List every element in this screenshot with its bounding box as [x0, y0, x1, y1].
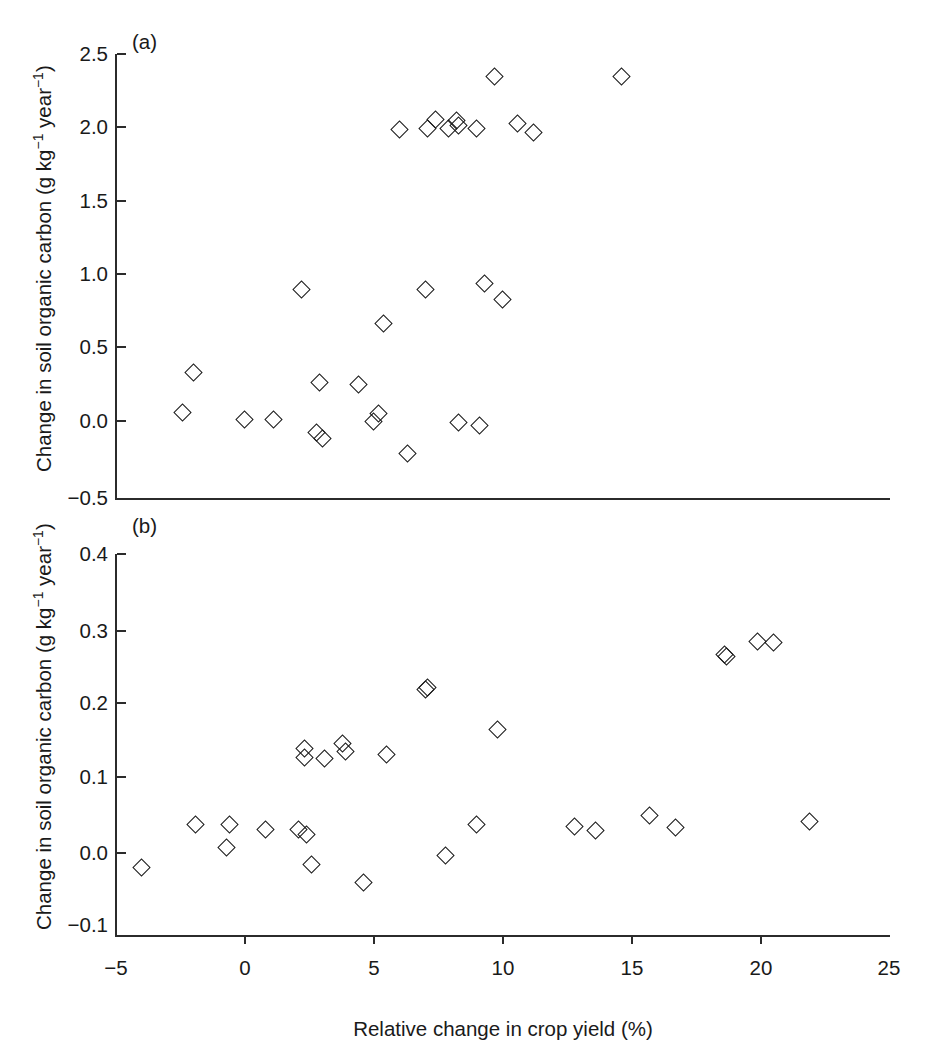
data-point-a-13: [398, 444, 416, 462]
data-point-a-7: [292, 280, 310, 298]
data-point-b-0: [133, 858, 151, 876]
scatter-figure: Change in soil organic carbon (g kg−1 ye…: [0, 0, 927, 1050]
data-point-a-8: [349, 375, 367, 393]
data-point-b-28: [800, 812, 818, 830]
data-point-b-9: [303, 855, 321, 873]
panel-b: (b) 0.4 0.3 0.2 0.1 0.0 −0.1 −5 0 5 10 1…: [0, 510, 927, 1050]
panel-b-plot-area: [0, 510, 927, 1050]
data-point-a-12: [390, 120, 408, 138]
data-point-a-21: [470, 416, 488, 434]
data-point-a-20: [449, 413, 467, 431]
data-point-b-20: [565, 817, 583, 835]
data-point-b-21: [586, 821, 604, 839]
data-point-b-23: [666, 819, 684, 837]
data-point-b-18: [468, 816, 486, 834]
data-point-b-1: [187, 815, 205, 833]
data-point-a-6: [310, 373, 328, 391]
data-point-a-0: [184, 363, 202, 381]
data-point-b-17: [437, 847, 455, 865]
data-point-a-24: [486, 67, 504, 85]
panel-a: (a) 2.5 2.0 1.5 1.0 0.5 0.0 −0.5: [0, 0, 927, 510]
data-point-a-28: [612, 67, 630, 85]
data-point-a-11: [375, 314, 393, 332]
data-point-b-4: [256, 820, 274, 838]
data-point-a-26: [509, 114, 527, 132]
panel-a-plot-area: [0, 0, 927, 510]
data-point-a-22: [468, 119, 486, 137]
data-point-b-22: [640, 806, 658, 824]
data-point-a-27: [524, 123, 542, 141]
x-axis-title: Relative change in crop yield (%): [253, 1017, 753, 1041]
data-point-b-10: [316, 749, 334, 767]
data-point-b-19: [488, 720, 506, 738]
data-point-b-14: [377, 745, 395, 763]
data-point-a-23: [475, 274, 493, 292]
data-point-a-25: [493, 290, 511, 308]
data-point-b-13: [354, 874, 372, 892]
data-point-b-3: [218, 839, 236, 857]
data-point-a-2: [236, 410, 254, 428]
data-point-a-14: [416, 280, 434, 298]
data-point-a-3: [264, 410, 282, 428]
data-point-a-1: [174, 403, 192, 421]
data-point-b-27: [764, 633, 782, 651]
data-point-b-2: [220, 815, 238, 833]
